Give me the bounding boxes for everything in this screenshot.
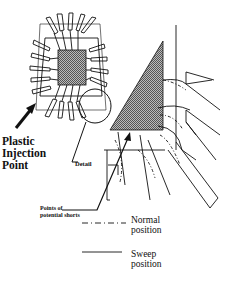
die-detail	[110, 41, 163, 130]
legend-sweep-label: Sweep position	[131, 249, 181, 270]
detail-circle	[79, 89, 111, 123]
die	[58, 50, 86, 85]
potential-shorts-label: Points of potential shorts	[40, 205, 80, 219]
detail-label: Detail	[75, 161, 92, 168]
legend-normal-label: Normal position	[131, 215, 181, 236]
injection-point-label: Plastic Injection Point	[2, 135, 62, 171]
injection-arrow	[16, 103, 36, 128]
